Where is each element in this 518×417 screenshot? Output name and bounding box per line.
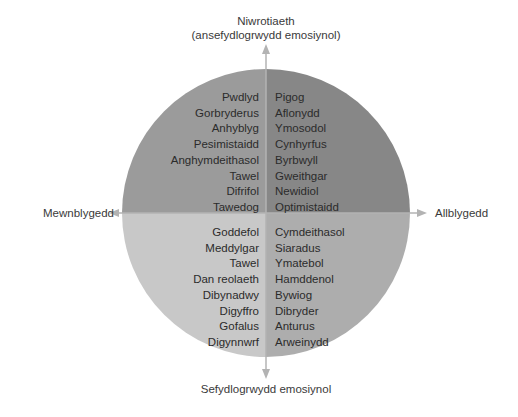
trait: Anhyblyg — [171, 121, 259, 137]
axis-label-top-line1: Niwrotiaeth — [0, 14, 518, 28]
trait: Pwdlyd — [171, 90, 259, 106]
trait: Tawedog — [171, 200, 259, 216]
trait: Bywiog — [275, 288, 345, 304]
trait: Anturus — [275, 319, 345, 335]
trait: Tawel — [193, 256, 259, 272]
arrow-down-icon — [262, 369, 270, 379]
trait: Gofalus — [193, 319, 259, 335]
trait: Dan reolaeth — [193, 272, 259, 288]
quadrant-top-right-traits: Pigog Aflonydd Ymosodol Cynhyrfus Byrbwy… — [275, 90, 339, 216]
trait: Anghymdeithasol — [171, 153, 259, 169]
axis-label-top-line2: (ansefydlogrwydd emosiynol) — [0, 28, 518, 42]
trait: Pigog — [275, 90, 339, 106]
trait: Optimistaidd — [275, 200, 339, 216]
trait: Digynnwrf — [193, 335, 259, 351]
trait: Ymatebol — [275, 256, 345, 272]
trait: Gorbryderus — [171, 106, 259, 122]
trait: Difrifol — [171, 184, 259, 200]
trait: Newidiol — [275, 184, 339, 200]
trait: Cymdeithasol — [275, 225, 345, 241]
trait: Cynhyrfus — [275, 137, 339, 153]
axis-label-right: Allblygedd — [435, 206, 488, 220]
trait: Digyffro — [193, 304, 259, 320]
quadrant-bottom-left-traits: Goddefol Meddylgar Tawel Dan reolaeth Di… — [193, 225, 259, 351]
axis-label-top: Niwrotiaeth (ansefydlogrwydd emosiynol) — [0, 14, 518, 42]
trait: Arweinydd — [275, 335, 345, 351]
arrow-up-icon — [262, 44, 270, 54]
trait: Goddefol — [193, 225, 259, 241]
trait: Dibryder — [275, 304, 345, 320]
trait: Ymosodol — [275, 121, 339, 137]
trait: Pesimistaidd — [171, 137, 259, 153]
axis-label-left: Mewnblygedd — [30, 206, 114, 220]
quadrant-top-left-traits: Pwdlyd Gorbryderus Anhyblyg Pesimistaidd… — [171, 90, 259, 216]
trait: Meddylgar — [193, 241, 259, 257]
axis-label-bottom: Sefydlogrwydd emosiynol — [0, 382, 518, 396]
trait: Gweithgar — [275, 169, 339, 185]
quadrant-bottom-right-traits: Cymdeithasol Siaradus Ymatebol Hamddenol… — [275, 225, 345, 351]
trait: Dibynadwy — [193, 288, 259, 304]
trait: Byrbwyll — [275, 153, 339, 169]
trait: Tawel — [171, 169, 259, 185]
trait: Hamddenol — [275, 272, 345, 288]
arrow-right-icon — [417, 209, 427, 217]
trait: Aflonydd — [275, 106, 339, 122]
trait: Siaradus — [275, 241, 345, 257]
